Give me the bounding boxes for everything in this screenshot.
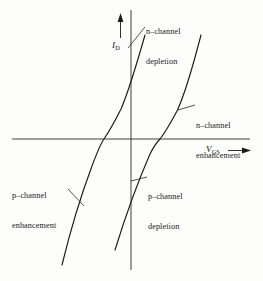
curve-label-p-channel-enhancement-line2: enhancement [12, 221, 56, 231]
curve-label-n-channel-depletion: n–channel depletion [146, 7, 181, 77]
curve-label-p-channel-enhancement: p–channel enhancement [12, 171, 56, 241]
curve-label-n-channel-enhancement-line1: n–channel [196, 121, 240, 131]
axis-label-gate-source-voltage: VGS [206, 144, 220, 154]
curve-label-n-channel-depletion-line1: n–channel [146, 27, 181, 37]
axis-label-drain-current-subscript: D [115, 44, 120, 51]
axis-label-gate-source-voltage-symbol: V [206, 144, 212, 154]
axis-label-gate-source-voltage-subscript: GS [212, 148, 220, 155]
curve-label-n-channel-enhancement: n–channel enhancement [196, 101, 240, 171]
axis-label-drain-current: ID [112, 40, 120, 50]
curve-label-p-channel-depletion-line1: p–channel [148, 192, 183, 202]
curve-label-n-channel-depletion-line2: depletion [146, 57, 181, 67]
curve-label-p-channel-enhancement-line1: p–channel [12, 191, 56, 201]
curve-label-p-channel-depletion: p–channel depletion [148, 172, 183, 242]
curve-label-p-channel-depletion-line2: depletion [148, 222, 183, 232]
